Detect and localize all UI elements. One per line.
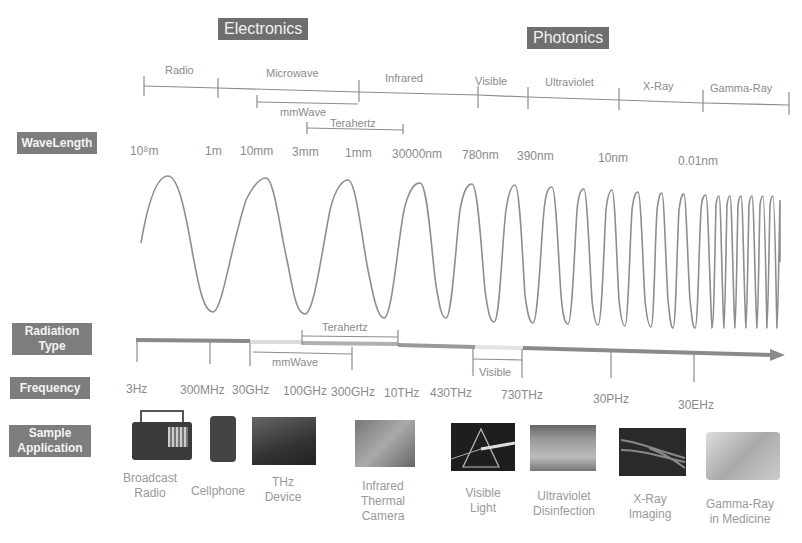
application-visible-light: VisibleLight bbox=[453, 486, 513, 516]
wavelength-6: 780nm bbox=[462, 148, 499, 162]
top-mmwave-label: mmWave bbox=[280, 106, 326, 118]
wavelength-7: 390nm bbox=[517, 149, 554, 163]
frequency-9: 30EHz bbox=[678, 398, 714, 412]
thermal-camera-image bbox=[355, 420, 415, 467]
app-label-line: Light bbox=[453, 501, 513, 516]
application-infrared-thermal-camera: InfraredThermalCamera bbox=[353, 479, 413, 524]
band-visible: Visible bbox=[475, 75, 507, 87]
wavelength-1: 1m bbox=[205, 144, 222, 158]
uv-lamp-image bbox=[530, 425, 596, 471]
app-label-line: X-Ray bbox=[620, 492, 680, 507]
frequency-5: 10THz bbox=[384, 386, 419, 400]
application-ultraviolet-disinfection: UltravioletDisinfection bbox=[526, 489, 602, 519]
application-xray-imaging: X-RayImaging bbox=[620, 492, 680, 522]
frequency-1: 300MHz bbox=[180, 383, 225, 397]
cellphone-icon bbox=[210, 416, 236, 462]
xray-hand-image bbox=[619, 428, 686, 476]
radiation-mmwave-label: mmWave bbox=[272, 356, 318, 368]
app-label-line: Broadcast bbox=[120, 471, 180, 486]
frequency-0: 3Hz bbox=[126, 382, 147, 396]
application-broadcast-radio: BroadcastRadio bbox=[120, 471, 180, 501]
radio-icon bbox=[132, 420, 194, 460]
gamma-machine-image bbox=[706, 432, 780, 480]
top-terahertz-label: Terahertz bbox=[330, 117, 376, 129]
app-label-line: Gamma-Ray bbox=[700, 497, 780, 512]
radiation-terahertz-label: Terahertz bbox=[322, 321, 368, 333]
app-label-line: Cellphone bbox=[188, 484, 248, 499]
frequency-6: 430THz bbox=[430, 386, 472, 400]
app-label-line: Visible bbox=[453, 486, 513, 501]
frequency-8: 30PHz bbox=[593, 392, 629, 406]
frequency-7: 730THz bbox=[501, 388, 543, 402]
wavelength-2: 10mm bbox=[240, 144, 273, 158]
app-label-line: Camera bbox=[353, 509, 413, 524]
app-label-line: in Medicine bbox=[700, 512, 780, 527]
app-label-line: Infrared bbox=[353, 479, 413, 494]
band-radio: Radio bbox=[165, 64, 194, 76]
app-label-line: Imaging bbox=[620, 507, 680, 522]
app-label-line: Device bbox=[253, 490, 313, 505]
wavelength-8: 10nm bbox=[598, 151, 628, 165]
application-gamma-ray-medicine: Gamma-Rayin Medicine bbox=[700, 497, 780, 527]
application-cellphone: Cellphone bbox=[188, 484, 248, 499]
wavelength-3: 3mm bbox=[292, 145, 319, 159]
app-label-line: Thermal bbox=[353, 494, 413, 509]
prism-image bbox=[451, 423, 515, 471]
thz-device-image bbox=[252, 417, 316, 465]
radiation-visible-label: Visible bbox=[479, 366, 511, 378]
app-label-line: Radio bbox=[120, 486, 180, 501]
band-ultraviolet: Ultraviolet bbox=[545, 76, 594, 88]
frequency-2: 30GHz bbox=[232, 383, 269, 397]
frequency-4: 300GHz bbox=[331, 385, 375, 399]
band-gamma-ray: Gamma-Ray bbox=[710, 82, 772, 94]
wavelength-5: 30000nm bbox=[392, 147, 442, 161]
wavelength-9: 0.01nm bbox=[678, 154, 718, 168]
app-label-line: Disinfection bbox=[526, 504, 602, 519]
band-microwave: Microwave bbox=[266, 67, 319, 79]
application-thz-device: THzDevice bbox=[253, 475, 313, 505]
band-xray: X-Ray bbox=[643, 80, 674, 92]
band-infrared: Infrared bbox=[385, 72, 423, 84]
wavelength-0: 10⁸m bbox=[130, 144, 158, 158]
app-label-line: Ultraviolet bbox=[526, 489, 602, 504]
app-label-line: THz bbox=[253, 475, 313, 490]
frequency-3: 100GHz bbox=[283, 384, 327, 398]
wavelength-4: 1mm bbox=[345, 146, 372, 160]
